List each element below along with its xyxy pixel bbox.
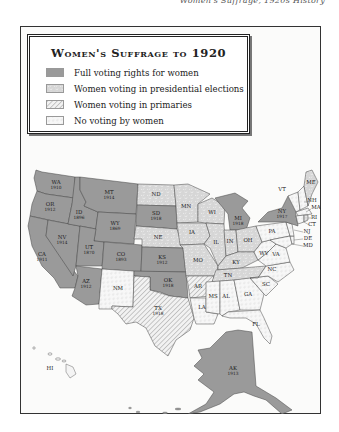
svg-text:MO: MO bbox=[193, 257, 204, 263]
svg-text:NJ: NJ bbox=[304, 228, 311, 235]
legend-item-none: No voting by women bbox=[46, 115, 164, 126]
svg-text:1912: 1912 bbox=[81, 284, 92, 289]
svg-text:1896: 1896 bbox=[74, 215, 85, 220]
diagonal-lines-swatch-icon bbox=[46, 100, 64, 109]
svg-text:1918: 1918 bbox=[163, 283, 174, 288]
svg-text:1869: 1869 bbox=[110, 226, 121, 231]
svg-text:OH: OH bbox=[243, 237, 252, 243]
svg-text:MA: MA bbox=[311, 204, 321, 210]
svg-text:LA: LA bbox=[198, 304, 206, 310]
svg-text:RI: RI bbox=[311, 214, 317, 220]
svg-text:SC: SC bbox=[262, 281, 270, 287]
svg-text:1910: 1910 bbox=[51, 185, 62, 190]
svg-text:GA: GA bbox=[244, 291, 252, 297]
svg-text:PA: PA bbox=[268, 228, 275, 234]
svg-text:VA: VA bbox=[271, 251, 280, 257]
svg-text:MD: MD bbox=[303, 242, 314, 248]
svg-text:1914: 1914 bbox=[57, 240, 68, 245]
svg-text:1918: 1918 bbox=[151, 216, 162, 221]
svg-text:IL: IL bbox=[213, 239, 219, 245]
state-AK bbox=[188, 330, 292, 414]
dashed-swatch-icon bbox=[46, 116, 64, 125]
svg-text:IN: IN bbox=[227, 238, 234, 244]
svg-text:KY: KY bbox=[232, 259, 240, 265]
legend-title: Women's Suffrage to 1920 bbox=[30, 46, 247, 60]
svg-text:TN: TN bbox=[224, 272, 233, 278]
legend-item-full: Full voting rights for women bbox=[46, 67, 199, 78]
svg-text:1911: 1911 bbox=[37, 257, 48, 262]
svg-text:CT: CT bbox=[308, 221, 316, 227]
svg-text:NM: NM bbox=[113, 285, 124, 291]
svg-text:DE: DE bbox=[304, 235, 312, 241]
svg-text:IA: IA bbox=[189, 229, 195, 235]
svg-text:1912: 1912 bbox=[157, 260, 168, 265]
svg-text:1918: 1918 bbox=[233, 221, 244, 226]
svg-text:ND: ND bbox=[151, 191, 161, 197]
svg-text:ME: ME bbox=[306, 179, 316, 185]
svg-text:WV: WV bbox=[259, 250, 269, 256]
svg-text:FL: FL bbox=[252, 321, 260, 327]
svg-text:MN: MN bbox=[181, 203, 192, 209]
svg-text:1914: 1914 bbox=[104, 195, 115, 200]
svg-text:VT: VT bbox=[277, 186, 286, 192]
legend-item-primaries: Women voting in primaries bbox=[46, 99, 192, 110]
svg-text:AL: AL bbox=[221, 293, 230, 299]
aleutian-islands bbox=[129, 407, 182, 414]
page-caption: Women's Suffrage, 1920s History bbox=[180, 0, 325, 5]
svg-text:NC: NC bbox=[268, 266, 277, 272]
state-HI bbox=[33, 347, 76, 378]
svg-text:NH: NH bbox=[307, 197, 317, 203]
svg-text:MS: MS bbox=[208, 293, 218, 299]
svg-text:1912: 1912 bbox=[45, 207, 56, 212]
legend-item-presidential: Women voting in presidential elections bbox=[46, 83, 244, 94]
svg-text:1893: 1893 bbox=[116, 257, 127, 262]
svg-text:1913: 1913 bbox=[228, 371, 239, 376]
svg-text:WI: WI bbox=[208, 209, 216, 215]
svg-text:NE: NE bbox=[154, 234, 163, 240]
svg-text:HI: HI bbox=[47, 365, 54, 371]
solid-swatch-icon bbox=[46, 68, 64, 77]
map-legend: Women's Suffrage to 1920 Full voting rig… bbox=[27, 34, 250, 134]
speckle-swatch-icon bbox=[46, 84, 64, 93]
svg-text:AR: AR bbox=[193, 283, 203, 289]
svg-text:1917: 1917 bbox=[277, 214, 288, 219]
svg-text:1870: 1870 bbox=[84, 250, 95, 255]
svg-text:1918: 1918 bbox=[153, 311, 164, 316]
